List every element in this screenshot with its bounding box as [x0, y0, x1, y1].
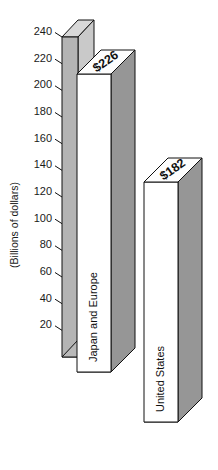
- y-axis-tick-label: 20: [40, 318, 52, 330]
- bar-1-side-face: [111, 50, 135, 372]
- y-axis-tick-label: 200: [34, 78, 52, 90]
- y-axis-tick-labels: 24022020018016014012010080604020: [34, 25, 52, 330]
- y-axis-tick-mark: [55, 299, 62, 304]
- bar-2-category-label: United States: [154, 345, 166, 412]
- y-axis-tick-mark: [55, 166, 62, 171]
- y-axis-tick-mark: [55, 113, 62, 118]
- y-axis-tick-label: 140: [34, 158, 52, 170]
- y-axis-tick-mark: [55, 59, 62, 64]
- y-axis-tick-mark: [55, 86, 62, 91]
- y-axis-tick-label: 220: [34, 52, 52, 64]
- y-axis-wall-front-face: [62, 37, 78, 357]
- y-axis-tick-label: 100: [34, 212, 52, 224]
- y-axis-tick-label: 240: [34, 25, 52, 37]
- y-axis-tick-mark: [55, 326, 62, 331]
- y-axis-tick-mark: [55, 273, 62, 278]
- y-axis-title-text: (Billions of dollars): [8, 182, 20, 268]
- y-axis-tick-label: 160: [34, 132, 52, 144]
- y-axis-tick-mark: [55, 193, 62, 198]
- bar-1-category-label: Japan and Europe: [87, 272, 99, 362]
- y-axis-tick-label: 80: [40, 238, 52, 250]
- y-axis-tick-label: 40: [40, 292, 52, 304]
- bar-chart-3d: 24022020018016014012010080604020 (Billio…: [0, 0, 218, 470]
- y-axis-tick-mark: [55, 246, 62, 251]
- y-axis-tick-mark: [55, 33, 62, 38]
- bar-japan-and-europe[interactable]: $226 Japan and Europe: [77, 48, 135, 372]
- y-axis-ticks: [55, 33, 62, 331]
- y-axis-tick-label: 120: [34, 185, 52, 197]
- y-axis-tick-mark: [55, 139, 62, 144]
- chart-canvas: 24022020018016014012010080604020 (Billio…: [0, 0, 218, 470]
- y-axis-tick-label: 180: [34, 105, 52, 117]
- y-axis-tick-mark: [55, 219, 62, 224]
- bar-2-side-face: [178, 158, 202, 422]
- y-axis-title: (Billions of dollars): [8, 182, 20, 268]
- bar-united-states[interactable]: $182 United States: [144, 156, 202, 422]
- y-axis-tick-label: 60: [40, 265, 52, 277]
